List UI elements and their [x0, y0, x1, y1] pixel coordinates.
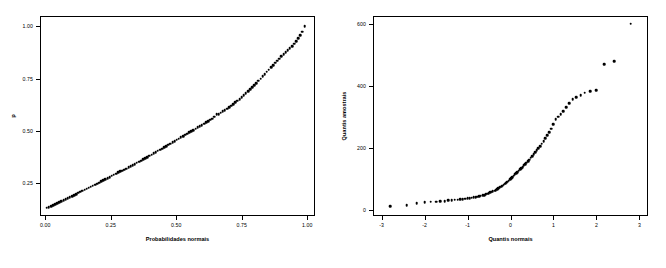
y-axis-title: p: [10, 114, 16, 117]
y-axis-tick: [369, 210, 373, 211]
y-axis-tick: [36, 131, 40, 132]
x-axis-tick: [553, 216, 554, 220]
data-point: [554, 118, 557, 121]
data-point: [416, 202, 419, 205]
x-axis-tick-label: 0.25: [105, 222, 116, 228]
x-axis-tick-label: 2: [595, 222, 598, 228]
x-axis-tick-label: -2: [422, 222, 427, 228]
data-point: [263, 73, 266, 76]
data-point: [562, 110, 565, 113]
data-point: [572, 98, 575, 101]
data-point: [439, 200, 442, 203]
plot-area-left: 0.000.250.500.751.000.250.500.751.00Prob…: [40, 16, 315, 216]
x-axis-tick: [425, 216, 426, 220]
data-point: [548, 131, 551, 134]
data-point: [541, 142, 544, 145]
y-axis-tick: [36, 183, 40, 184]
x-axis-tick-label: 1.00: [302, 222, 313, 228]
x-axis-tick: [382, 216, 383, 220]
data-point: [303, 25, 306, 28]
x-axis-tick: [111, 216, 112, 220]
data-point: [255, 82, 258, 85]
data-point: [550, 127, 553, 130]
data-point: [301, 30, 304, 33]
y-axis-tick: [369, 24, 373, 25]
y-axis-tick-label: 0.75: [9, 76, 33, 82]
data-point: [435, 200, 438, 203]
x-axis-tick-label: 0.50: [171, 222, 182, 228]
plot-area-right: -3-2-101230200400600Quantis normaisQuant…: [373, 16, 648, 216]
chart-panel-right: -3-2-101230200400600Quantis normaisQuant…: [333, 0, 666, 268]
data-point: [559, 113, 562, 116]
plot-frame-left: [40, 16, 315, 216]
x-axis-tick-label: -3: [379, 222, 384, 228]
data-point: [589, 90, 592, 93]
y-axis-tick-label: 0: [342, 207, 366, 213]
data-point: [575, 96, 578, 99]
data-point: [544, 137, 547, 140]
data-point: [270, 66, 273, 69]
chart-panel-left: 0.000.250.500.751.000.250.500.751.00Prob…: [0, 0, 333, 268]
data-point: [542, 140, 545, 143]
data-point: [603, 63, 606, 66]
data-point: [565, 106, 568, 109]
y-axis-tick-label: 400: [342, 83, 366, 89]
y-axis-tick: [36, 79, 40, 80]
x-axis-tick: [176, 216, 177, 220]
data-point: [261, 75, 264, 78]
data-point: [295, 40, 298, 43]
x-axis-tick-label: 3: [638, 222, 641, 228]
x-axis-tick: [596, 216, 597, 220]
data-point: [447, 199, 450, 202]
data-point: [423, 201, 426, 204]
plot-frame-right: [373, 16, 648, 216]
data-point: [568, 102, 571, 105]
data-point: [259, 77, 262, 80]
data-point: [552, 123, 555, 126]
x-axis-tick-label: 0.75: [236, 222, 247, 228]
figure-container: 0.000.250.500.751.000.250.500.751.00Prob…: [0, 0, 666, 268]
y-axis-tick: [36, 26, 40, 27]
data-point: [443, 200, 446, 203]
data-point: [272, 64, 275, 67]
data-point: [557, 115, 560, 118]
data-point: [293, 42, 296, 45]
data-point: [429, 200, 432, 203]
data-point: [297, 37, 300, 40]
data-point: [595, 89, 598, 92]
x-axis-tick-label: 0: [509, 222, 512, 228]
y-axis-tick-label: 200: [342, 145, 366, 151]
x-axis-tick: [45, 216, 46, 220]
x-axis-tick: [511, 216, 512, 220]
x-axis-tick-label: 1: [552, 222, 555, 228]
y-axis-tick-label: 1.00: [9, 23, 33, 29]
data-point: [584, 91, 587, 94]
data-point: [291, 45, 294, 48]
data-point: [299, 34, 302, 37]
data-point: [405, 204, 408, 207]
y-axis-tick: [369, 86, 373, 87]
x-axis-tick-label: -1: [465, 222, 470, 228]
y-axis-tick-label: 0.50: [9, 128, 33, 134]
y-axis-tick-label: 0.25: [9, 180, 33, 186]
x-axis-title: Quantis normais: [488, 236, 532, 242]
x-axis-tick: [307, 216, 308, 220]
x-axis-title: Probabilidades normais: [146, 236, 209, 242]
data-point: [389, 205, 392, 208]
x-axis-tick: [468, 216, 469, 220]
data-point: [630, 22, 633, 25]
x-axis-tick-label: 0.00: [40, 222, 51, 228]
x-axis-tick: [242, 216, 243, 220]
y-axis-title: Quantis amostrais: [341, 92, 347, 141]
x-axis-tick: [639, 216, 640, 220]
y-axis-tick: [369, 148, 373, 149]
data-point: [613, 60, 616, 63]
data-point: [213, 116, 216, 119]
y-axis-tick-label: 600: [342, 21, 366, 27]
data-point: [274, 62, 277, 65]
data-point: [579, 94, 582, 97]
data-point: [539, 145, 542, 148]
data-point: [546, 134, 549, 137]
data-point: [257, 79, 260, 82]
